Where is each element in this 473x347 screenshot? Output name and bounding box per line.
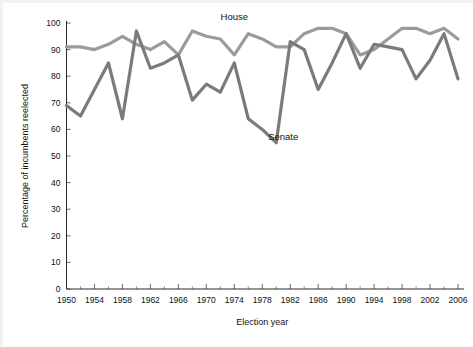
x-tick-label: 1970 — [197, 295, 216, 305]
x-tick-label: 1982 — [281, 295, 300, 305]
x-tick-label: 2002 — [421, 295, 440, 305]
series-line-house — [67, 28, 459, 55]
x-tick-label: 1950 — [57, 295, 76, 305]
x-tick-label: 1954 — [85, 295, 104, 305]
x-tick-label: 1990 — [337, 295, 356, 305]
y-tick-label: 10 — [51, 257, 61, 267]
series-line-senate — [67, 31, 459, 143]
y-tick-label: 70 — [51, 98, 61, 108]
y-tick-label: 60 — [51, 124, 61, 134]
y-tick-label: 100 — [46, 18, 60, 28]
x-tick-label: 1958 — [113, 295, 132, 305]
x-tick-label: 1974 — [225, 295, 244, 305]
x-axis-title: Election year — [236, 317, 288, 327]
chart-container: 0102030405060708090100 19501954195819621… — [0, 0, 473, 347]
x-tick-label: 1966 — [169, 295, 188, 305]
y-tick-label: 20 — [51, 231, 61, 241]
x-axis-ticks: 1950195419581962196619701974197819821986… — [57, 284, 468, 305]
y-tick-label: 80 — [51, 71, 61, 81]
x-tick-label: 1978 — [253, 295, 272, 305]
y-tick-label: 50 — [51, 151, 61, 161]
data-series-group — [67, 28, 459, 142]
y-tick-label: 90 — [51, 45, 61, 55]
x-tick-label: 1986 — [309, 295, 328, 305]
y-tick-label: 40 — [51, 178, 61, 188]
x-tick-label: 1962 — [141, 295, 160, 305]
series-label-senate: Senate — [268, 131, 298, 142]
y-axis-title: Percentage of incumbents reelected — [20, 84, 30, 228]
line-chart: 0102030405060708090100 19501954195819621… — [0, 0, 473, 347]
series-label-house: House — [221, 11, 248, 22]
y-tick-label: 30 — [51, 204, 61, 214]
x-tick-label: 1998 — [393, 295, 412, 305]
y-tick-label: 0 — [56, 284, 61, 294]
x-tick-label: 2006 — [449, 295, 468, 305]
x-tick-label: 1994 — [365, 295, 384, 305]
